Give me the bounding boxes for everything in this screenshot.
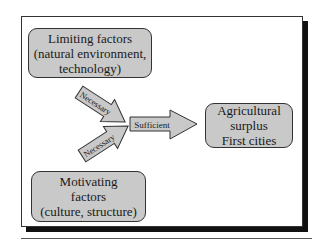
arrows-layer: Necessary Necessary Sufficient — [0, 0, 327, 249]
sufficient-arrow: Sufficient — [130, 110, 197, 139]
necessary-arrow-top: Necessary — [72, 81, 132, 133]
necessary-arrow-bottom: Necessary — [75, 115, 135, 167]
bottom-rule — [21, 238, 312, 239]
sufficient-label: Sufficient — [134, 120, 170, 130]
